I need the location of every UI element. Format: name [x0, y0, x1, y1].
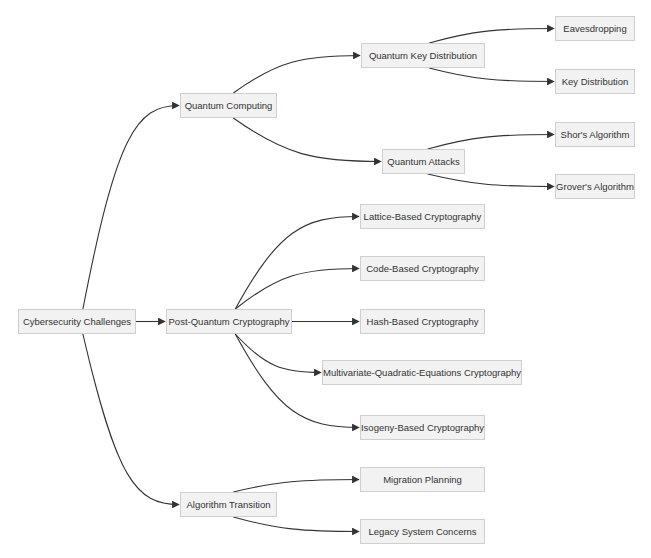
- node-qkd: Quantum Key Distribution: [361, 43, 485, 68]
- node-pqc: Post-Quantum Cryptography: [166, 309, 292, 334]
- node-eav: Eavesdropping: [555, 16, 635, 41]
- edge-qc-to-qa: [233, 118, 381, 162]
- edge-qkd-to-eav: [429, 29, 554, 44]
- edge-root-to-at: [83, 334, 179, 505]
- node-shor: Shor's Algorithm: [555, 122, 635, 147]
- node-mq: Multivariate-Quadratic-Equations Cryptog…: [322, 360, 522, 385]
- node-grover: Grover's Algorithm: [555, 174, 635, 199]
- edge-root-to-qc: [83, 106, 179, 310]
- edge-qkd-to-kd: [429, 68, 554, 82]
- node-qa: Quantum Attacks: [382, 149, 465, 174]
- node-root: Cybersecurity Challenges: [18, 309, 136, 334]
- node-kd: Key Distribution: [555, 69, 635, 94]
- node-lattice: Lattice-Based Cryptography: [360, 204, 485, 229]
- node-leg: Legacy System Concerns: [360, 519, 485, 544]
- node-qc: Quantum Computing: [180, 93, 277, 118]
- node-iso: Isogeny-Based Cryptography: [360, 415, 485, 440]
- edge-qa-to-shor: [428, 135, 554, 150]
- node-at: Algorithm Transition: [180, 492, 277, 517]
- diagram-edges: [0, 0, 651, 558]
- edge-qa-to-grover: [428, 174, 554, 187]
- edge-at-to-mig: [233, 480, 359, 493]
- edge-pqc-to-mq: [235, 334, 321, 373]
- node-mig: Migration Planning: [360, 467, 485, 492]
- edge-at-to-leg: [233, 517, 359, 532]
- edge-qc-to-qkd: [233, 56, 360, 94]
- node-code: Code-Based Cryptography: [360, 256, 485, 281]
- node-hash: Hash-Based Cryptography: [360, 309, 485, 334]
- edge-pqc-to-code: [235, 269, 359, 310]
